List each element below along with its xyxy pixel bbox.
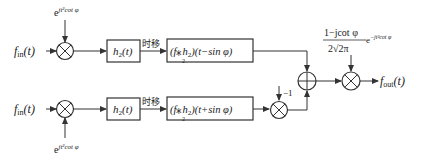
lower-shift-label: 时移	[142, 96, 160, 107]
block-diagram: fin(t) ejt²cot φ h2(t) 时移 (f⁎h2)(t−sin φ…	[0, 0, 423, 162]
output-stage: 1−jcot φ 2√2π e−jt²cot φ fout(t)	[298, 27, 405, 90]
upper-filter-label: h2(t)	[113, 45, 133, 59]
upper-chirp-label: ejt²cot φ	[54, 6, 79, 18]
gain-label: −1	[283, 88, 293, 98]
lower-multiplier	[57, 101, 74, 118]
upper-branch: fin(t) ejt²cot φ h2(t) 时移 (f⁎h2)(t−sin φ…	[14, 6, 307, 71]
upper-multiplier	[57, 43, 74, 60]
upper-star-subscript: 2	[182, 58, 185, 64]
lower-branch: fin(t) ejt²cot φ h2(t) 时移 (f⁎h2)(t+sin φ…	[14, 86, 307, 155]
lower-input-label: fin(t)	[14, 102, 35, 117]
gain-denominator: 2√2π	[328, 43, 349, 54]
gain-exponential: e−jt²cot φ	[366, 34, 392, 45]
gain-multiplier	[271, 102, 288, 119]
lower-chirp-label: ejt²cot φ	[54, 143, 79, 155]
output-label: fout(t)	[380, 74, 405, 89]
lower-star-subscript: 2	[182, 116, 185, 122]
upper-shift-label: 时移	[142, 38, 160, 49]
gain-numerator: 1−jcot φ	[324, 27, 358, 38]
lower-filter-label: h2(t)	[113, 103, 133, 117]
output-multiplier	[342, 72, 360, 90]
upper-input-label: fin(t)	[14, 44, 35, 59]
upper-to-adder-arrow	[253, 51, 307, 71]
adder	[298, 72, 316, 90]
